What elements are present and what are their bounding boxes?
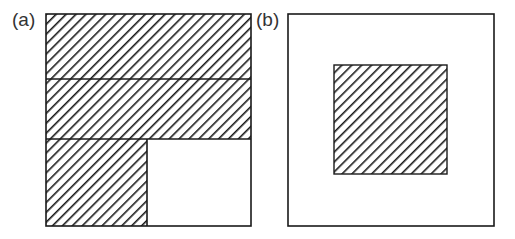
panel-a-bottom-left-cell [46, 139, 147, 226]
panel-a-top-strip [46, 14, 251, 79]
panel-a [46, 14, 251, 226]
figure-canvas [0, 0, 515, 239]
panel-a-bottom-right-cell [147, 139, 251, 226]
panel-a-middle-strip [46, 79, 251, 139]
panel-b-inner-square [334, 65, 447, 174]
panel-b [288, 14, 494, 226]
